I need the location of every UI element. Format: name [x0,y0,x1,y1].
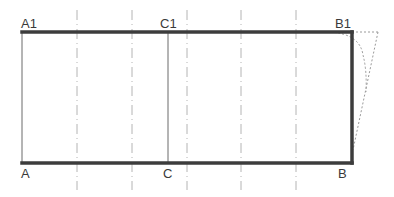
label-A: A [21,167,30,180]
label-B: B [338,167,347,180]
label-A1: A1 [21,17,37,30]
label-C1: C1 [160,17,177,30]
label-B1: B1 [335,17,351,30]
curve [330,32,366,92]
dotted-construction [330,32,378,150]
label-C: C [163,167,172,180]
